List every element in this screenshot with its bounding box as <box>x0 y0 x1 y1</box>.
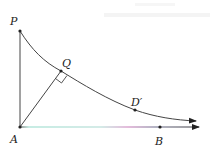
curve <box>20 31 196 121</box>
segment-aq <box>20 71 61 127</box>
geometry-diagram: P A Q D′ B <box>0 0 215 151</box>
label-d-prime: D′ <box>130 96 143 109</box>
watermark <box>104 3 210 17</box>
label-a: A <box>9 133 18 146</box>
point-a <box>18 125 21 128</box>
point-p <box>18 29 21 32</box>
point-b <box>158 125 161 128</box>
label-q: Q <box>62 57 71 70</box>
label-p: P <box>9 15 18 28</box>
label-b: B <box>154 135 163 148</box>
